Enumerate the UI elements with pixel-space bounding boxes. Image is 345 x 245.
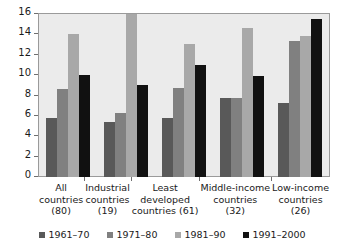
x-axis-label-line: Middle-income <box>200 182 270 194</box>
legend-item[interactable]: 1971–80 <box>107 230 157 240</box>
bar[interactable] <box>104 122 115 177</box>
bar-group <box>97 14 155 177</box>
y-tick-label: 0 <box>25 169 31 180</box>
y-tick-label: 12 <box>18 47 31 58</box>
x-axis-label: Middle-incomecountries(32) <box>199 179 271 225</box>
x-axis: Allcountries(80)Industrialcountries(19)L… <box>38 179 330 225</box>
bar[interactable] <box>242 28 253 177</box>
x-axis-label-line: All <box>39 182 83 194</box>
y-tick-label: 14 <box>18 26 31 37</box>
x-tick-mark <box>84 177 85 181</box>
bar[interactable] <box>115 113 126 177</box>
legend-label: 1981–90 <box>184 230 225 240</box>
x-axis-label-line: Least <box>132 182 199 194</box>
legend-label: 1991–2000 <box>252 230 305 240</box>
y-tick-mark <box>34 33 38 34</box>
bar[interactable] <box>68 34 79 177</box>
legend-item[interactable]: 1961–70 <box>39 230 89 240</box>
bar[interactable] <box>220 98 231 177</box>
bar[interactable] <box>137 85 148 177</box>
x-axis-label-line: (80) <box>39 205 83 217</box>
x-axis-label-line: countries (61) <box>132 205 199 217</box>
x-axis-label: Leastdevelopedcountries (61) <box>131 179 200 225</box>
bar-group <box>271 14 329 177</box>
legend-item[interactable]: 1991–2000 <box>243 230 305 240</box>
y-tick-mark <box>34 74 38 75</box>
legend-label: 1961–70 <box>48 230 89 240</box>
y-tick-mark <box>34 156 38 157</box>
y-tick-label: 4 <box>25 128 31 139</box>
y-tick-label: 2 <box>25 149 31 160</box>
bar[interactable] <box>278 103 289 177</box>
y-tick-mark <box>34 54 38 55</box>
x-tick-mark <box>199 177 200 181</box>
bar[interactable] <box>231 98 242 177</box>
x-axis-label-line: Industrial <box>85 182 130 194</box>
x-axis-label-line: countries <box>39 194 83 206</box>
legend-label: 1971–80 <box>116 230 157 240</box>
legend-swatch-icon <box>243 232 249 238</box>
bar[interactable] <box>46 118 57 177</box>
x-axis-label-line: (32) <box>200 205 270 217</box>
x-axis-label-line: (19) <box>85 205 130 217</box>
y-tick-mark <box>34 176 38 177</box>
bar[interactable] <box>57 89 68 177</box>
y-tick-label: 6 <box>25 108 31 119</box>
bar-group <box>155 14 213 177</box>
legend-swatch-icon <box>175 232 181 238</box>
x-axis-label: Low-incomecountries(26) <box>271 179 330 225</box>
bar-group <box>39 14 97 177</box>
legend-item[interactable]: 1981–90 <box>175 230 225 240</box>
bar[interactable] <box>311 19 322 177</box>
bar[interactable] <box>289 41 300 178</box>
chart-legend: 1961–701971–801981–901991–2000 <box>0 227 345 243</box>
x-axis-label: Allcountries(80) <box>38 179 84 225</box>
y-tick-mark <box>34 95 38 96</box>
x-axis-label-line: developed <box>132 194 199 206</box>
bar[interactable] <box>300 36 311 177</box>
x-axis-label: Industrialcountries(19) <box>84 179 131 225</box>
x-axis-label-line: (26) <box>272 205 329 217</box>
bar[interactable] <box>184 44 195 177</box>
x-axis-label-line: Low-income <box>272 182 329 194</box>
bar-chart: 0246810121416 Allcountries(80)Industrial… <box>0 0 345 245</box>
bar[interactable] <box>195 65 206 177</box>
bar[interactable] <box>162 118 173 177</box>
x-tick-mark <box>131 177 132 181</box>
y-tick-mark <box>34 135 38 136</box>
x-axis-label-line: countries <box>200 194 270 206</box>
legend-swatch-icon <box>107 232 113 238</box>
bar[interactable] <box>173 88 184 177</box>
bar[interactable] <box>253 76 264 177</box>
y-tick-label: 10 <box>18 67 31 78</box>
x-tick-mark <box>271 177 272 181</box>
y-tick-mark <box>34 13 38 14</box>
y-axis: 0246810121416 <box>0 13 38 177</box>
y-tick-label: 8 <box>25 88 31 99</box>
y-tick-mark <box>34 115 38 116</box>
bar-group <box>213 14 271 177</box>
x-axis-label-line: countries <box>85 194 130 206</box>
bars-layer <box>39 14 329 177</box>
x-axis-label-line: countries <box>272 194 329 206</box>
bar[interactable] <box>79 75 90 177</box>
bar[interactable] <box>126 14 137 177</box>
legend-swatch-icon <box>39 232 45 238</box>
y-tick-label: 16 <box>18 6 31 17</box>
